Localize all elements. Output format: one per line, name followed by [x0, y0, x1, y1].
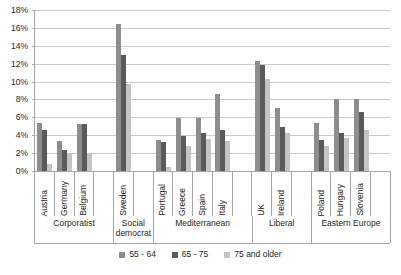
x-axis-group-cell: Mediterranean — [154, 216, 253, 243]
x-axis-group-label: Social democrat — [114, 218, 153, 238]
legend-swatch-icon — [119, 252, 125, 258]
x-axis-country-label: UK — [257, 203, 266, 216]
x-axis-group-label: Corporatist — [53, 218, 95, 228]
x-axis-country-label: Hungary — [336, 183, 345, 216]
bar — [324, 146, 329, 171]
bar — [344, 138, 349, 171]
bar-group — [213, 10, 233, 171]
x-axis-group-cell: Corporatist — [35, 216, 114, 243]
bar-group — [272, 10, 292, 171]
x-axis-group-label: Mediterranean — [175, 218, 230, 228]
bar-group-spacer — [233, 10, 253, 171]
bar-group — [312, 10, 332, 171]
legend-label: 75 and older — [234, 250, 281, 259]
bar — [67, 153, 72, 171]
bar — [126, 84, 131, 171]
x-axis-country-cell: Italy — [213, 171, 233, 216]
x-axis-country-cell: Portugal — [154, 171, 174, 216]
x-axis-country-cell: UK — [252, 171, 272, 216]
x-axis-group-label: Liberal — [269, 218, 295, 228]
bar — [47, 164, 52, 171]
x-axis-country-cell: Austria — [35, 171, 55, 216]
x-axis-country-label: Austria — [40, 189, 49, 216]
y-axis-tick-label: 8% — [16, 95, 28, 104]
x-axis-country-cell: Slovenia — [351, 171, 371, 216]
x-axis-country-label: Slovenia — [356, 182, 365, 216]
y-axis: 0%2%4%6%8%10%12%14%16%18% — [0, 10, 31, 171]
x-axis-country-cell: Greece — [173, 171, 193, 216]
bar-group — [173, 10, 193, 171]
bar — [206, 139, 211, 171]
bars-layer — [35, 10, 390, 171]
x-axis-country-cell: Hungary — [331, 171, 351, 216]
legend-label: 55 - 64 — [129, 250, 155, 259]
x-axis-country-label: Spain — [198, 193, 207, 216]
x-axis-country-spacer — [371, 171, 391, 216]
y-axis-tick-label: 2% — [16, 149, 28, 158]
x-axis-country-label: Greece — [178, 187, 187, 216]
x-axis-country-spacer — [292, 171, 312, 216]
x-axis-group-cell: Liberal — [253, 216, 312, 243]
legend-swatch-icon — [224, 252, 230, 258]
bar-group — [193, 10, 213, 171]
x-axis-country-cell: Spain — [193, 171, 213, 216]
x-axis-country-cell: Germany — [55, 171, 75, 216]
bar-chart: 0%2%4%6%8%10%12%14%16%18% AustriaGermany… — [0, 0, 401, 275]
x-axis-country-label: Ireland — [277, 189, 286, 216]
x-axis-country-cell: Belgium — [75, 171, 95, 216]
x-axis-country-label: Italy — [218, 199, 227, 216]
x-axis-country-label: Sweden — [119, 184, 128, 216]
bar — [265, 79, 270, 171]
x-axis-country-cell: Sweden — [114, 171, 134, 216]
legend-entry[interactable]: 65 - 75 — [172, 250, 208, 259]
y-axis-tick-label: 16% — [11, 24, 28, 33]
bar-group — [55, 10, 75, 171]
x-axis-country-spacer — [233, 171, 253, 216]
bar — [225, 141, 230, 171]
legend-swatch-icon — [172, 252, 178, 258]
x-axis-country-label: Germany — [60, 180, 69, 216]
plot-area — [34, 10, 390, 171]
bar — [364, 130, 369, 171]
bar-group — [154, 10, 174, 171]
y-axis-tick-label: 14% — [11, 42, 28, 51]
bar-group — [114, 10, 134, 171]
x-axis-country-spacer — [134, 171, 154, 216]
x-axis-country-label: Belgium — [79, 184, 88, 216]
bar — [285, 133, 290, 171]
x-axis-country-cell: Poland — [312, 171, 332, 216]
x-axis-country-labels: AustriaGermanyBelgiumSwedenPortugalGreec… — [34, 171, 390, 216]
bar-group — [331, 10, 351, 171]
x-axis-group-cell: Eastern Europe — [312, 216, 391, 243]
y-axis-tick-label: 12% — [11, 59, 28, 68]
bar-group-spacer — [292, 10, 312, 171]
y-axis-tick-label: 4% — [16, 131, 28, 140]
x-axis-group-cell: Social democrat — [114, 216, 154, 243]
x-axis-country-label: Portugal — [158, 183, 167, 216]
bar-group — [351, 10, 371, 171]
bar-group-spacer — [94, 10, 114, 171]
x-axis-country-cell: Ireland — [272, 171, 292, 216]
x-axis-group-labels: CorporatistSocial democratMediterraneanL… — [34, 216, 390, 244]
bar-group-spacer — [371, 10, 391, 171]
bar-group — [252, 10, 272, 171]
y-axis-tick-label: 0% — [16, 167, 28, 176]
bar-group — [35, 10, 55, 171]
legend-entry[interactable]: 55 - 64 — [119, 250, 155, 259]
y-axis-tick-label: 10% — [11, 77, 28, 86]
x-axis-country-spacer — [94, 171, 114, 216]
legend-label: 65 - 75 — [182, 250, 208, 259]
bar — [87, 153, 92, 171]
bar-group — [75, 10, 95, 171]
x-axis-group-label: Eastern Europe — [321, 218, 380, 228]
x-axis-country-label: Poland — [317, 189, 326, 216]
y-axis-tick-label: 6% — [16, 113, 28, 122]
bar — [186, 146, 191, 171]
legend-entry[interactable]: 75 and older — [224, 250, 281, 259]
chart-legend: 55 - 6465 - 7575 and older — [0, 250, 401, 259]
y-axis-tick-label: 18% — [11, 6, 28, 15]
bar-group-spacer — [134, 10, 154, 171]
